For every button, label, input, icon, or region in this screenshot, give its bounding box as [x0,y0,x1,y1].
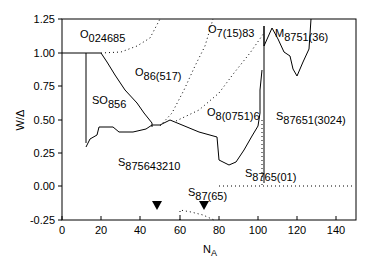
region-label: S8765(01) [245,167,296,183]
region-label: O86(517) [135,66,181,82]
region-label: M8751(36) [275,27,328,43]
y-tick-label: 0.25 [34,147,55,159]
phase-diagram-chart: 1.25 1.00 0.75 0.50 0.25 0.00 -0.25 0 20… [0,0,369,270]
x-tick-label: 80 [213,224,225,236]
x-axis-label: NA [203,243,217,258]
x-tick-label: 60 [174,224,186,236]
series-m8751-region [264,19,311,76]
y-tick-label: 1.00 [34,47,55,59]
y-tick-label: 0.00 [34,180,55,192]
region-label: S87(65) [188,186,227,202]
x-tick-label: 100 [249,224,267,236]
region-label: SO856 [92,94,126,110]
y-axis-label: W/Δ [14,109,26,130]
x-axis [62,216,336,220]
y-tick-label: 0.50 [34,114,55,126]
x-tick-label: 20 [95,224,107,236]
y-tick-label: -0.25 [30,214,55,226]
series-so856-upper [101,53,152,127]
y-axis [58,19,62,220]
x-tick-label: 0 [59,224,65,236]
triangle-marker [199,201,209,210]
x-tick-label: 140 [327,224,345,236]
region-label: S87651(3024) [276,110,346,126]
region-label: O7(15)83 [208,23,254,39]
y-tick-label: 0.75 [34,80,55,92]
region-label: O8(0751)6 [207,106,260,122]
x-tick-label: 120 [288,224,306,236]
x-tick-label: 40 [134,224,146,236]
region-label: O024685 [80,28,125,44]
y-tick-label: 1.25 [34,13,55,25]
region-label: S875643210 [118,156,180,172]
series-s87-65-boundary [180,210,214,220]
triangle-marker [152,201,162,210]
series-o7-boundary [176,33,264,121]
